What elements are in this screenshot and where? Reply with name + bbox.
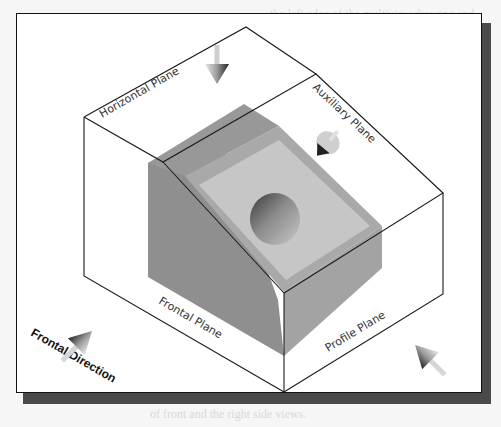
object-hole <box>250 193 300 245</box>
horizontal-view-arrow-icon <box>205 45 229 84</box>
projection-box-diagram: Horizontal Plane Auxiliary Plane Frontal… <box>0 0 501 427</box>
horizontal-plane-label: Horizontal Plane <box>97 64 181 120</box>
profile-view-arrow-icon <box>407 337 454 384</box>
frontal-direction-label: Frontal Direction <box>29 325 119 385</box>
auxiliary-view-arrow-icon <box>308 123 347 163</box>
